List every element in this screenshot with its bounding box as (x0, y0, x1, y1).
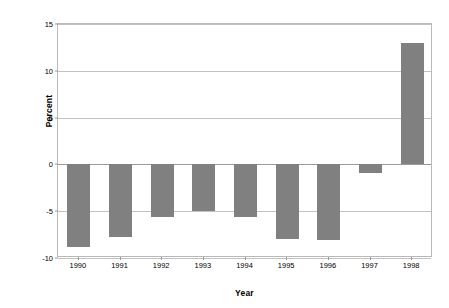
y-tick-label: 10 (45, 66, 53, 75)
x-tick-mark (120, 257, 121, 260)
x-tick-mark (245, 257, 246, 260)
y-tick-label: 5 (49, 113, 53, 122)
bars-group (58, 24, 431, 256)
y-tick-label: -5 (46, 207, 53, 216)
y-axis-title: Percent (42, 76, 56, 146)
bar-1994 (234, 164, 257, 216)
bar-1995 (276, 164, 299, 239)
x-tick-label-1996: 1996 (319, 261, 336, 270)
x-tick-mark (161, 257, 162, 260)
x-tick-label-1991: 1991 (111, 261, 128, 270)
x-tick-label-1993: 1993 (194, 261, 211, 270)
x-tick-label-1997: 1997 (361, 261, 378, 270)
bar-1992 (151, 164, 174, 216)
bar-1991 (109, 164, 132, 237)
bar-1998 (401, 43, 424, 165)
x-tick-label-1994: 1994 (236, 261, 253, 270)
x-tick-mark (78, 257, 79, 260)
bar-chart: Percent 151050-5-10 19901991199219931994… (0, 0, 449, 308)
bar-1993 (192, 164, 215, 211)
x-tick-mark (411, 257, 412, 260)
x-tick-label-1995: 1995 (278, 261, 295, 270)
x-tick-mark (286, 257, 287, 260)
x-tick-mark (370, 257, 371, 260)
bar-1990 (67, 164, 90, 246)
y-tick-label: 0 (49, 160, 53, 169)
x-axis-tick-labels: 199019911992199319941995199619971998 (57, 261, 432, 275)
x-tick-label-1992: 1992 (153, 261, 170, 270)
bar-1996 (317, 164, 340, 240)
bar-1997 (359, 164, 382, 172)
x-tick-mark (203, 257, 204, 260)
x-tick-mark (328, 257, 329, 260)
plot-area: 151050-5-10 (57, 23, 432, 257)
y-tick-label: -10 (42, 254, 53, 263)
x-axis-title: Year (57, 288, 432, 298)
y-tick-label: 15 (45, 20, 53, 29)
x-tick-label-1998: 1998 (403, 261, 420, 270)
x-tick-label-1990: 1990 (69, 261, 86, 270)
